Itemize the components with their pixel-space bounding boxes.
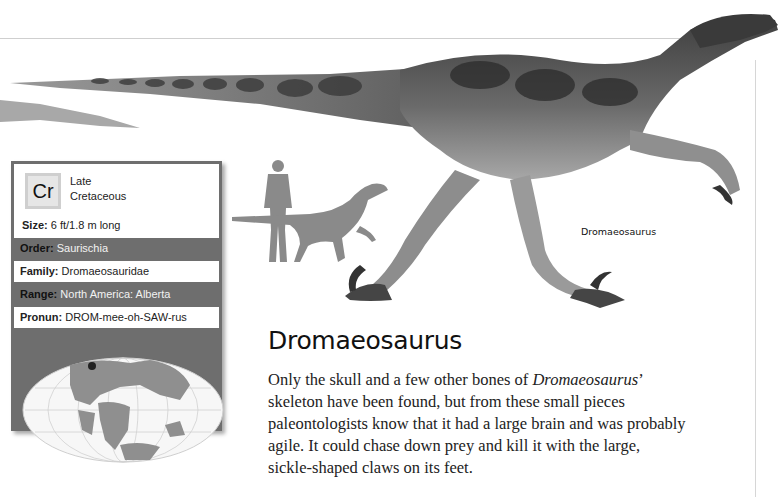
body-text-pre: Only the skull and a few other bones of	[268, 370, 532, 389]
order-row: Order: Saurischia	[14, 238, 219, 259]
family-row: Family: Dromaeosauridae	[14, 261, 219, 282]
family-label: Family:	[20, 265, 59, 277]
era-line-2: Cretaceous	[70, 189, 126, 204]
era-badge: Cr	[25, 173, 61, 209]
family-value: Dromaeosauridae	[62, 265, 149, 277]
order-value: Saurischia	[57, 242, 108, 254]
illustration-caption: Dromaeosaurus	[581, 226, 656, 237]
range-label: Range:	[20, 288, 57, 300]
range-value: North America: Alberta	[60, 288, 170, 300]
size-row: Size: 6 ft/1.8 m long	[22, 219, 120, 231]
body-text-italic: Dromaeosaurus	[532, 370, 638, 389]
range-marker	[88, 362, 96, 370]
era-line-1: Late	[70, 174, 126, 189]
article-body: Only the skull and a few other bones of …	[268, 369, 688, 479]
range-map	[20, 355, 230, 465]
pronun-label: Pronun:	[20, 311, 62, 323]
article-title: Dromaeosaurus	[268, 326, 462, 355]
pronun-row: Pronun: DROM-mee-oh-SAW-rus	[14, 307, 219, 328]
pronun-value: DROM-mee-oh-SAW-rus	[65, 311, 187, 323]
fact-header: Cr Late Cretaceous Size: 6 ft/1.8 m long	[14, 164, 219, 238]
scale-silhouettes	[232, 160, 388, 262]
era-text: Late Cretaceous	[70, 174, 126, 204]
range-row: Range: North America: Alberta	[14, 284, 219, 305]
size-value: 6 ft/1.8 m long	[51, 219, 121, 231]
order-label: Order:	[20, 242, 54, 254]
size-label: Size:	[22, 219, 48, 231]
